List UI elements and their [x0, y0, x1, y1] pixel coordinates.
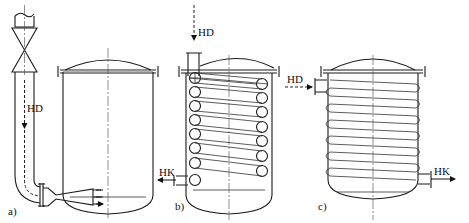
label-hk-c: HK [434, 165, 450, 177]
vessel-b [179, 55, 279, 220]
panel-a: HD a) [8, 5, 158, 220]
internal-coil [189, 72, 268, 186]
vessel-a [58, 48, 158, 220]
caption-c: c) [318, 200, 327, 213]
panel-b: HD [158, 5, 279, 220]
caption-b: b) [175, 200, 185, 213]
figure-canvas: HD a) HD [0, 0, 469, 223]
label-hk-b: HK [159, 166, 175, 178]
vessel-c [321, 55, 425, 220]
label-hd-c: HD [287, 73, 303, 85]
caption-a: a) [8, 205, 17, 218]
label-hd-b: HD [198, 26, 214, 38]
panel-c: HD HK c) [285, 55, 455, 220]
label-hd-a: HD [27, 102, 43, 114]
